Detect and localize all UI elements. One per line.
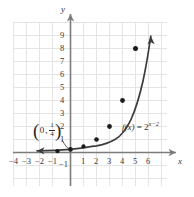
x-tick-label-1: 1 (81, 157, 85, 166)
y-axis-label: y (61, 5, 65, 14)
x-tick-label-neg2: −2 (35, 157, 44, 166)
data-point (81, 144, 85, 148)
fraction-numerator: 1 (50, 122, 54, 129)
data-point (94, 137, 99, 142)
y-tick-label-6: 6 (60, 70, 64, 79)
y-tick-label-7: 7 (60, 57, 64, 66)
fraction-denominator: 4 (50, 131, 54, 138)
x-tick-label-neg1: −1 (48, 157, 57, 166)
plot-area (0, 0, 194, 197)
equals-sign: = (137, 122, 142, 132)
x-tick-label-2: 2 (94, 157, 98, 166)
function-equation-label: f(x) = 2x−2 (122, 121, 159, 132)
x-axis-label: x (178, 157, 182, 166)
data-point (55, 149, 59, 153)
x-tick-label-6: 6 (146, 157, 150, 166)
point-annotation: ( 0 , 1 4 ) (33, 122, 61, 139)
x-tick-label-neg3: −3 (22, 157, 31, 166)
x-tick-label-neg4: −4 (9, 157, 18, 166)
x-tick-label-4: 4 (120, 157, 124, 166)
function-exponent: x−2 (149, 120, 160, 127)
exponential-function-graph: 9 8 7 6 5 4 3 2 1 −1 −4 −3 −2 −1 1 2 3 4… (0, 0, 194, 197)
y-tick-label-5: 5 (60, 83, 64, 92)
x-tick-label-5: 5 (133, 157, 137, 166)
y-tick-label-8: 8 (60, 44, 64, 53)
data-point (107, 124, 112, 129)
y-tick-label-4: 4 (60, 96, 64, 105)
y-tick-label-3: 3 (60, 109, 64, 118)
data-point (120, 98, 125, 103)
function-argument: (x) (125, 122, 135, 132)
y-tick-label-neg1: −1 (59, 160, 68, 169)
annotation-close-paren: ) (55, 123, 61, 138)
x-tick-label-3: 3 (107, 157, 111, 166)
y-tick-label-9: 9 (60, 31, 64, 40)
data-point (133, 46, 138, 51)
data-point (68, 147, 73, 152)
